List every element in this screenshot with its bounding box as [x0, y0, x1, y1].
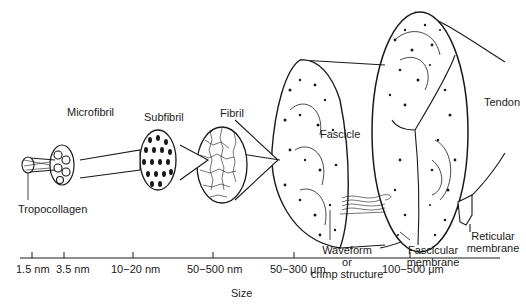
label-fibril: Fibril: [220, 107, 244, 119]
label-reticular-line1: Reticular: [458, 230, 526, 242]
label-subfibril: Subfibril: [144, 111, 184, 123]
axis-tick-4: 50−500 nm: [187, 263, 242, 275]
label-fascicle: Fascicle: [320, 128, 360, 140]
label-tropocollagen: Tropocollagen: [18, 203, 87, 215]
label-reticular-line2: membrane: [458, 242, 526, 254]
label-waveform-line1: Waveform: [302, 244, 392, 256]
label-tendon: Tendon: [484, 96, 520, 108]
label-reticular-membrane: Reticular membrane: [458, 230, 526, 254]
axis-tick-6: 100−500 μm: [382, 263, 444, 275]
axis-label-size: Size: [231, 287, 252, 299]
axis-tick-5: 50−300 μm: [270, 263, 326, 275]
axis-tick-3: 10−20 nm: [111, 263, 160, 275]
axis-tick-2: 3.5 nm: [56, 263, 90, 275]
label-microfibril: Microfibril: [67, 106, 114, 118]
axis-tick-1: 1.5 nm: [16, 263, 50, 275]
